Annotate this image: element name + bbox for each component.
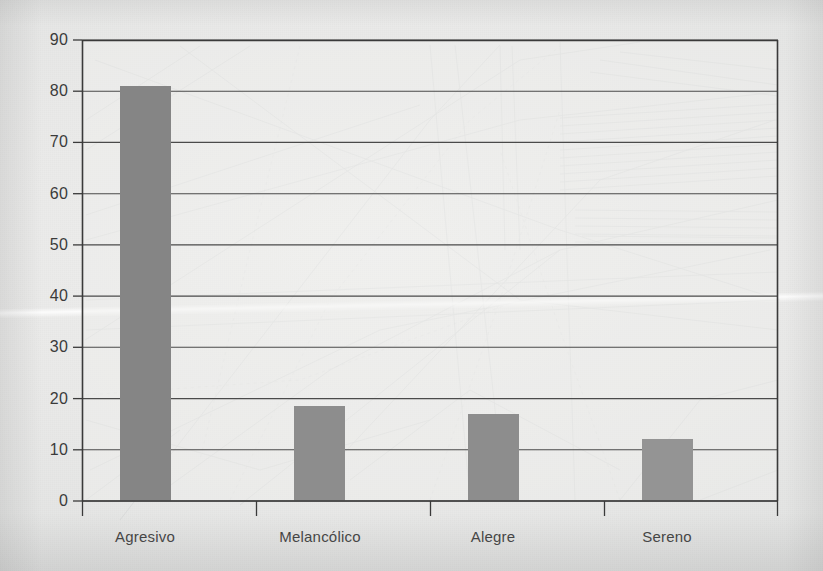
y-tick-label: 50 bbox=[50, 236, 68, 254]
bar-melancolico[interactable] bbox=[294, 406, 345, 501]
bar-alegre[interactable] bbox=[468, 414, 519, 501]
x-tick-label-melancolico: Melancólico bbox=[279, 528, 360, 545]
x-tick-label-alegre: Alegre bbox=[471, 528, 516, 545]
x-tick-marks bbox=[83, 501, 778, 516]
x-tick-label-agresivo: Agresivo bbox=[115, 528, 175, 545]
x-tick-label-sereno: Sereno bbox=[642, 528, 692, 545]
y-tick-label: 0 bbox=[59, 492, 68, 510]
y-tick-label: 70 bbox=[50, 133, 68, 151]
bar-chart bbox=[0, 0, 823, 571]
y-tick-label: 80 bbox=[50, 82, 68, 100]
y-tick-label: 20 bbox=[50, 390, 68, 408]
plot-background bbox=[82, 40, 778, 501]
y-axis-tick-labels: 90 80 70 60 50 40 30 20 10 0 bbox=[28, 0, 68, 571]
y-tick-marks bbox=[73, 40, 82, 501]
bar-agresivo[interactable] bbox=[120, 86, 171, 501]
y-tick-label: 10 bbox=[50, 441, 68, 459]
y-tick-label: 40 bbox=[50, 287, 68, 305]
bar-sereno[interactable] bbox=[642, 439, 693, 501]
y-tick-label: 30 bbox=[50, 338, 68, 356]
y-tick-label: 90 bbox=[50, 31, 68, 49]
scanned-chart-page: 90 80 70 60 50 40 30 20 10 0 Agresivo Me… bbox=[0, 0, 823, 571]
y-tick-label: 60 bbox=[50, 185, 68, 203]
